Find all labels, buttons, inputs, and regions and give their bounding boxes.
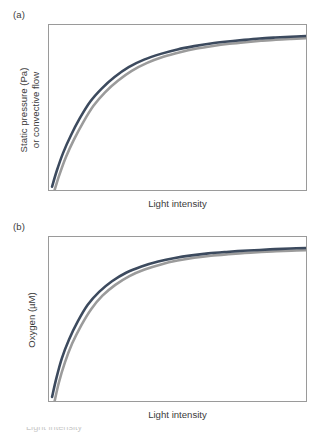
panel-a-curves — [49, 25, 306, 190]
panel-a-y-axis-label-line2: or convective flow — [30, 35, 42, 185]
scientific-figure: (a) Static pressure (Pa) or convective f… — [0, 0, 323, 435]
caption-cutoff-text: Light intensity — [26, 427, 82, 432]
panel-a-y-axis-label: Static pressure (Pa) or convective flow — [18, 35, 41, 185]
panel-a-x-axis-label: Light intensity — [48, 198, 307, 209]
panel-a-y-axis-label-line1: Static pressure (Pa) — [18, 35, 30, 185]
panel-b: (b) Oxygen (µM) Light intensity — [0, 212, 323, 427]
panel-a: (a) Static pressure (Pa) or convective f… — [0, 0, 323, 215]
panel-b-x-axis-label: Light intensity — [48, 409, 307, 420]
panel-a-plot-area — [48, 24, 307, 191]
panel-b-label: (b) — [13, 221, 25, 232]
panel-b-curves — [49, 237, 306, 401]
panel-b-y-axis-label-line1: Oxygen (µM) — [26, 250, 38, 390]
caption-cutoff: Light intensity — [0, 427, 323, 435]
panel-b-curve-dark — [52, 248, 306, 397]
panel-a-curve-gray — [55, 38, 306, 190]
panel-b-curve-gray — [55, 250, 306, 401]
panel-b-plot-area — [48, 236, 307, 402]
panel-b-y-axis-label: Oxygen (µM) — [26, 250, 38, 390]
panel-a-label: (a) — [13, 9, 25, 20]
